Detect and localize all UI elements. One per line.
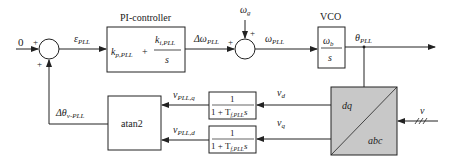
delta-omega-label: ΔωPLL	[193, 33, 219, 46]
pi-plus: +	[142, 46, 148, 57]
atan2-label: atan2	[121, 118, 143, 129]
omega-g-label: ωg	[240, 4, 251, 17]
summing-junction-2	[235, 39, 255, 59]
v-pll-d-label: vPLL,d	[173, 124, 195, 137]
three-phase-mark-icon	[415, 118, 427, 124]
theta-pll-label: θPLL	[355, 32, 372, 45]
v-d-label: vd	[277, 87, 285, 100]
transform-dq-label: dq	[342, 100, 352, 111]
vco-den: s	[328, 52, 332, 63]
sum2-sign-top: +	[250, 28, 255, 38]
pi-den: s	[165, 54, 169, 65]
pi-controller-title: PI-controller	[120, 12, 172, 23]
vco-title: VCO	[320, 11, 341, 22]
error-label: εPLL	[74, 33, 90, 46]
v-input-label: v	[420, 105, 425, 116]
pll-block-diagram: 0 + + εPLL PI-controller kp,PLL + ki,PLL…	[0, 0, 456, 165]
delta-theta-label: Δθv-PLL	[55, 107, 84, 120]
summing-junction-1	[39, 39, 59, 59]
transform-abc-label: abc	[368, 135, 383, 146]
v-pll-q-label: vPLL,q	[173, 89, 195, 102]
sum1-sign-bottom: +	[37, 59, 42, 69]
sum1-sign-top: +	[33, 37, 38, 47]
lpf-bottom-num: 1	[230, 128, 235, 138]
input-zero-label: 0	[18, 36, 24, 48]
lpf-top-num: 1	[230, 94, 235, 104]
omega-pll-label: ωPLL	[265, 33, 284, 46]
v-q-label: vq	[277, 117, 285, 130]
sum2-sign-left: +	[228, 37, 233, 47]
